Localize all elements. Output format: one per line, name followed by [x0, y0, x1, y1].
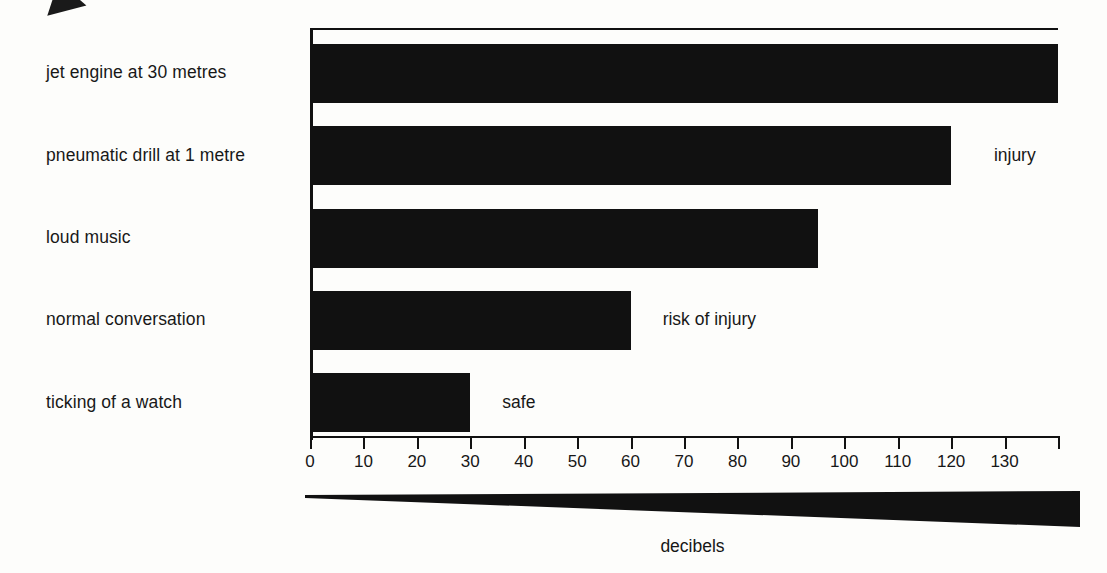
plot-area	[310, 28, 1058, 440]
x-axis	[310, 436, 1060, 450]
x-axis-label: decibels	[305, 536, 1080, 557]
x-tick-label-40: 40	[514, 452, 533, 472]
category-label-1: jet engine at 30 metres	[0, 62, 290, 83]
category-label-5: ticking of a watch	[0, 392, 290, 413]
x-tick-90	[791, 436, 793, 449]
x-tick-label-100: 100	[830, 452, 858, 472]
category-label-3: loud music	[0, 227, 290, 248]
x-tick-label-130: 130	[990, 452, 1018, 472]
x-tick-label-0: 0	[305, 452, 314, 472]
x-tick-50	[577, 436, 579, 449]
bar-3	[313, 209, 818, 268]
x-tick-10	[363, 436, 365, 449]
x-tick-label-110: 110	[884, 452, 911, 472]
x-tick-label-10: 10	[354, 452, 373, 472]
category-label-2: pneumatic drill at 1 metre	[0, 145, 290, 166]
x-tick-80	[737, 436, 739, 449]
x-tick-label-120: 120	[937, 452, 965, 472]
x-tick-label-30: 30	[461, 452, 480, 472]
bar-5	[313, 373, 470, 432]
x-tick-110	[898, 436, 900, 449]
plot-top-border	[310, 28, 1058, 30]
x-tick-100	[844, 436, 846, 449]
x-tick-60	[631, 436, 633, 449]
x-tick-30	[470, 436, 472, 449]
x-tick-20	[417, 436, 419, 449]
bar-1	[313, 44, 1058, 103]
annotation-2: risk of injury	[663, 309, 756, 330]
x-tick-label-80: 80	[728, 452, 747, 472]
x-tick-label-20: 20	[407, 452, 426, 472]
category-label-4: normal conversation	[0, 309, 290, 330]
category-labels: jet engine at 30 metrespneumatic drill a…	[0, 36, 290, 436]
x-tick-label-50: 50	[568, 452, 587, 472]
bar-4	[313, 291, 631, 350]
x-tick-120	[951, 436, 953, 449]
x-tick-label-70: 70	[675, 452, 694, 472]
chart-page: jet engine at 30 metrespneumatic drill a…	[0, 0, 1107, 573]
annotation-3: safe	[502, 392, 535, 413]
bar-2	[313, 126, 951, 185]
x-tick-0	[310, 436, 312, 449]
x-tick-70	[684, 436, 686, 449]
x-tick-130	[1005, 436, 1007, 449]
x-tick-40	[524, 436, 526, 449]
gradient-wedge-icon	[305, 489, 1080, 531]
arrow-artifact-icon	[47, 0, 90, 26]
x-tick-label-60: 60	[621, 452, 640, 472]
x-tick-end	[1058, 436, 1060, 449]
x-tick-label-90: 90	[781, 452, 800, 472]
annotation-1: injury	[994, 145, 1036, 166]
